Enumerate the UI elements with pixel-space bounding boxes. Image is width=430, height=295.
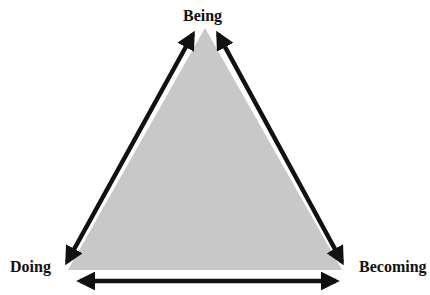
triangle-diagram <box>0 0 430 295</box>
node-label-doing: Doing <box>10 259 51 275</box>
node-label-becoming: Becoming <box>359 259 427 275</box>
node-label-being: Being <box>183 8 222 24</box>
triangle-shape <box>68 28 342 270</box>
